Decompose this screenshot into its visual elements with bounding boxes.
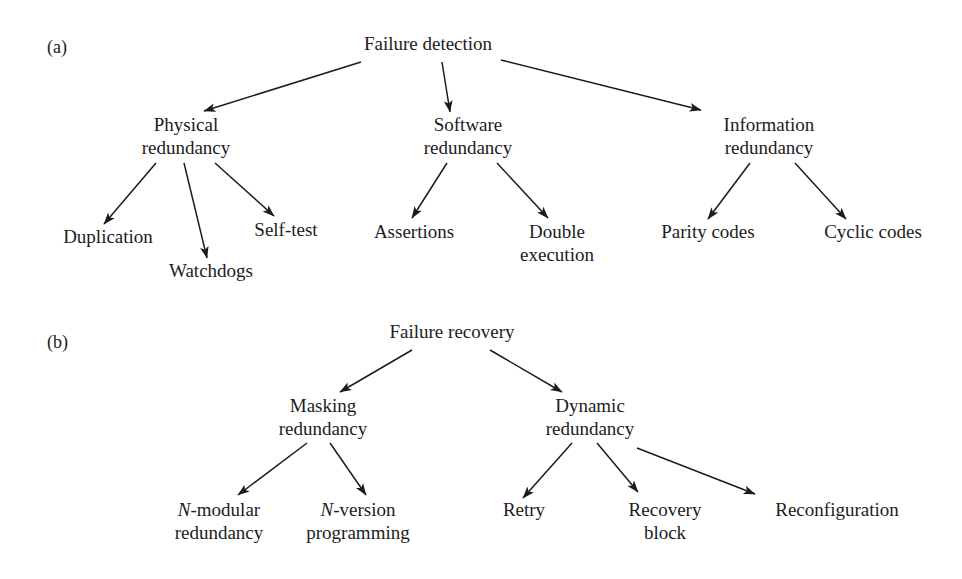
node-watchdogs-line-1: Watchdogs xyxy=(169,260,253,281)
node-recovery-block-line-1: Recovery xyxy=(629,499,702,520)
node-physical-redundancy: Physicalredundancy xyxy=(142,114,231,158)
node-double-execution-line-2: execution xyxy=(520,244,594,265)
edge-information-to-parity xyxy=(708,163,750,219)
edge-recovery-to-masking xyxy=(340,350,412,392)
node-retry: Retry xyxy=(503,499,546,520)
edge-physical-to-watchdogs xyxy=(184,163,207,258)
node-n-modular-redundancy-line-2: redundancy xyxy=(175,522,264,543)
node-self-test-line-1: Self-test xyxy=(254,219,318,240)
node-failure-detection: Failure detection xyxy=(364,33,493,54)
edge-dynamic-to-reconfiguration xyxy=(637,448,755,494)
node-double-execution: Doubleexecution xyxy=(520,221,594,265)
edge-detection-to-information xyxy=(501,60,701,110)
edge-physical-to-self-test xyxy=(215,163,274,216)
node-masking-redundancy-line-1: Masking xyxy=(290,395,357,416)
edge-dynamic-to-retry xyxy=(523,443,572,498)
node-failure-recovery-line-1: Failure recovery xyxy=(389,321,515,342)
node-masking-redundancy: Maskingredundancy xyxy=(279,395,368,439)
node-n-modular-redundancy: N-modularredundancy xyxy=(175,499,264,543)
node-n-version-programming-line-2: programming xyxy=(306,522,410,543)
edge-detection-to-physical xyxy=(204,62,361,111)
node-assertions: Assertions xyxy=(374,221,454,242)
edge-physical-to-duplication xyxy=(104,163,156,224)
node-physical-redundancy-line-1: Physical xyxy=(154,114,218,135)
node-software-redundancy-line-1: Software xyxy=(434,114,503,135)
edge-recovery-to-dynamic xyxy=(490,350,562,392)
edge-masking-to-n-version xyxy=(330,443,366,495)
node-information-redundancy-line-1: Information xyxy=(724,114,815,135)
node-watchdogs: Watchdogs xyxy=(169,260,253,281)
node-parity-codes-line-1: Parity codes xyxy=(661,221,754,242)
node-physical-redundancy-line-2: redundancy xyxy=(142,137,231,158)
node-assertions-line-1: Assertions xyxy=(374,221,454,242)
node-duplication-line-1: Duplication xyxy=(63,226,153,247)
edge-information-to-cyclic xyxy=(795,163,846,219)
failure-detection-recovery-taxonomy-figure: Failure detectionPhysicalredundancySoftw… xyxy=(0,0,962,579)
node-n-modular-redundancy-line-1: N-modular xyxy=(177,499,261,520)
edge-detection-to-software xyxy=(442,62,450,112)
node-information-redundancy-line-2: redundancy xyxy=(725,137,814,158)
panel-label-b: (b) xyxy=(47,332,68,353)
panel-label-layer: (a)(b) xyxy=(47,37,68,353)
edge-masking-to-n-modular xyxy=(238,443,307,495)
node-double-execution-line-1: Double xyxy=(529,221,585,242)
edge-dynamic-to-recovery-block xyxy=(597,443,638,492)
node-cyclic-codes-line-1: Cyclic codes xyxy=(824,221,922,242)
node-reconfiguration: Reconfiguration xyxy=(775,499,899,520)
node-duplication: Duplication xyxy=(63,226,153,247)
node-software-redundancy: Softwareredundancy xyxy=(424,114,513,158)
node-parity-codes: Parity codes xyxy=(661,221,754,242)
node-masking-redundancy-line-2: redundancy xyxy=(279,418,368,439)
node-n-version-programming-line-1: N-version xyxy=(320,499,396,520)
node-reconfiguration-line-1: Reconfiguration xyxy=(775,499,899,520)
node-retry-line-1: Retry xyxy=(503,499,546,520)
node-layer: Failure detectionPhysicalredundancySoftw… xyxy=(63,33,922,543)
node-self-test: Self-test xyxy=(254,219,318,240)
node-dynamic-redundancy: Dynamicredundancy xyxy=(546,395,635,439)
edge-software-to-double-execution xyxy=(497,163,548,218)
node-n-version-programming: N-versionprogramming xyxy=(306,499,410,543)
node-recovery-block: Recoveryblock xyxy=(629,499,702,543)
panel-label-a: (a) xyxy=(47,37,67,58)
diagram-canvas: Failure detectionPhysicalredundancySoftw… xyxy=(0,0,962,579)
node-software-redundancy-line-2: redundancy xyxy=(424,137,513,158)
node-dynamic-redundancy-line-2: redundancy xyxy=(546,418,635,439)
node-failure-detection-line-1: Failure detection xyxy=(364,33,493,54)
node-information-redundancy: Informationredundancy xyxy=(724,114,815,158)
node-cyclic-codes: Cyclic codes xyxy=(824,221,922,242)
edge-software-to-assertions xyxy=(412,163,447,218)
node-recovery-block-line-2: block xyxy=(644,522,687,543)
node-failure-recovery: Failure recovery xyxy=(389,321,515,342)
node-dynamic-redundancy-line-1: Dynamic xyxy=(555,395,625,416)
